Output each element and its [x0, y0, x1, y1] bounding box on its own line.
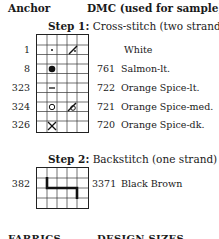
anchor-number: 323	[0, 82, 30, 93]
fabrics-heading: FABRICS	[8, 233, 61, 239]
color-name: Orange Spice-med.	[121, 101, 213, 112]
anchor-number: 324	[0, 101, 30, 112]
dmc-number: 3371	[92, 178, 116, 189]
half-stitch-circle-icon	[68, 103, 76, 111]
step1-title-bold: Step 1:	[48, 20, 89, 32]
anchor-number: 8	[0, 63, 30, 74]
color-name: Orange Spice-dk.	[121, 119, 204, 130]
dmc-number: 761	[97, 63, 115, 74]
design-sizes-heading: DESIGN SIZES	[97, 233, 184, 239]
x-cross-icon	[48, 122, 56, 130]
key-header-anchor: Anchor	[8, 2, 50, 14]
anchor-number: 326	[0, 119, 30, 130]
color-name: White	[124, 44, 152, 55]
anchor-number: 382	[0, 178, 30, 189]
step2-title-bold: Step 2:	[48, 153, 89, 165]
color-name: Orange Spice-lt.	[121, 82, 200, 93]
dot-small-icon	[51, 49, 53, 51]
step2-title: Step 2: Backstitch (one strand)	[48, 153, 217, 165]
color-name: Black Brown	[121, 178, 182, 189]
step1-title: Step 1: Cross-stitch (two strands)	[48, 20, 219, 32]
color-name: Salmon-lt.	[121, 63, 170, 74]
anchor-number: 1	[0, 44, 30, 55]
step1-stitch-grid	[36, 34, 89, 133]
step2-title-rest: Backstitch (one strand)	[89, 153, 217, 165]
dmc-number: 722	[97, 82, 115, 93]
circle-open-icon	[49, 104, 54, 109]
step1-title-rest: Cross-stitch (two strands)	[89, 20, 219, 32]
step2-backstitch-grid	[36, 167, 89, 209]
half-stitch-dot-icon	[69, 46, 77, 54]
dmc-number: 720	[97, 119, 115, 130]
key-header-dmc: DMC (used for sample)	[87, 2, 219, 14]
dot-filled-icon	[49, 66, 56, 73]
backstitch-line-icon	[47, 177, 77, 199]
stitch-grid-svg	[37, 35, 88, 132]
dmc-number: 721	[97, 101, 115, 112]
backstitch-grid-svg	[37, 168, 88, 208]
